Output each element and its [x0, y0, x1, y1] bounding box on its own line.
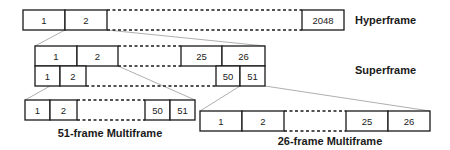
superframe-row1-cell-2-label: 2 [95, 51, 100, 62]
multiframe51-cell-51-label: 51 [177, 105, 188, 116]
multiframe26-cell-2-label: 2 [260, 116, 265, 127]
hyperframe-cell-2-label: 2 [83, 15, 88, 26]
hyperframe-cell-1-label: 1 [41, 15, 46, 26]
superframe-row1-cell-26-label: 26 [238, 51, 249, 62]
multiframe51-cell-1-label: 1 [35, 105, 40, 116]
superframe-row2-cell-1-label: 1 [45, 71, 50, 82]
multiframe51-cell-2-label: 2 [61, 105, 66, 116]
hyperframe-title: Hyperframe [355, 14, 416, 26]
hyperframe-cell-2048-label: 2048 [312, 15, 333, 26]
frame-hierarchy-diagram: 1 2 2048 Hyperframe 1 2 25 26 1 2 50 51 … [0, 0, 450, 150]
multiframe26-cell-25-label: 25 [362, 116, 373, 127]
multiframe26-cell-1-label: 1 [218, 116, 223, 127]
superframe-row1-cell-25-label: 25 [196, 51, 207, 62]
multiframe26-cell-26-label: 26 [404, 116, 415, 127]
multiframe-51: 1 2 50 51 51-frame Multiframe [25, 100, 195, 139]
multiframe26-title: 26-frame Multiframe [278, 135, 383, 147]
superframe: 1 2 25 26 1 2 50 51 Superframe [35, 46, 416, 86]
superframe-row2-cell-50-label: 50 [223, 71, 234, 82]
multiframe-26: 1 2 25 26 26-frame Multiframe [200, 111, 430, 147]
hyperframe: 1 2 2048 Hyperframe [23, 10, 416, 30]
multiframe51-cell-50-label: 50 [152, 105, 163, 116]
multiframe51-title: 51-frame Multiframe [58, 127, 163, 139]
superframe-title: Superframe [355, 64, 416, 76]
superframe-row2-cell-2-label: 2 [70, 71, 75, 82]
superframe-row1-cell-1-label: 1 [53, 51, 58, 62]
superframe-row2-cell-51-label: 51 [247, 71, 258, 82]
